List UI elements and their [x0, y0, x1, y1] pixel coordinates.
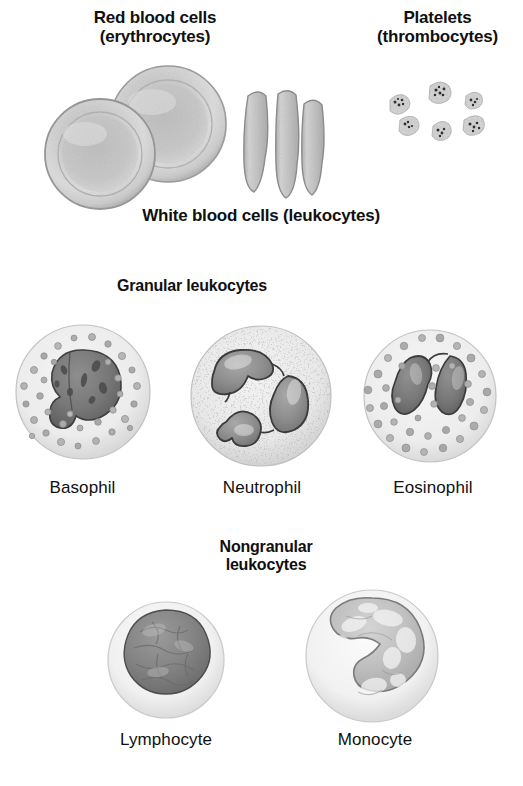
- platelet-5: [432, 121, 451, 140]
- label-basophil: Basophil: [15, 478, 150, 497]
- erythrocyte-edge-3: [302, 100, 324, 195]
- lymphocyte-illustration: [96, 588, 236, 730]
- heading-platelets: Platelets (thrombocytes): [350, 8, 523, 46]
- heading-granular-leukocytes: Granular leukocytes: [62, 277, 322, 295]
- blood-cells-figure: Red blood cells (erythrocytes) Platelets…: [0, 0, 523, 786]
- platelet-6: [463, 116, 484, 136]
- heading-white-blood-cells: White blood cells (leukocytes): [96, 206, 426, 225]
- erythrocyte-edge-view-group: [234, 84, 334, 204]
- label-lymphocyte: Lymphocyte: [96, 730, 236, 749]
- eosinophil-illustration: [354, 322, 506, 474]
- erythrocyte-disc-front: [45, 99, 155, 209]
- erythrocyte-edge-2: [276, 91, 299, 198]
- monocyte-illustration: [296, 580, 448, 732]
- label-monocyte: Monocyte: [305, 730, 445, 749]
- heading-red-blood-cells: Red blood cells (erythrocytes): [40, 8, 270, 46]
- heading-nongranular-leukocytes: Nongranular leukocytes: [176, 538, 356, 574]
- label-eosinophil: Eosinophil: [363, 478, 503, 497]
- erythrocyte-edge-1: [244, 92, 268, 192]
- platelet-3: [465, 92, 483, 109]
- eosinophil-cytoplasm: [364, 330, 496, 462]
- neutrophil-illustration: [184, 318, 339, 476]
- neutrophil-granules: [192, 327, 330, 465]
- basophil-illustration: [8, 318, 158, 473]
- platelet-cluster: [378, 78, 498, 168]
- erythrocyte-face-view-group: [28, 62, 243, 212]
- lymphocyte-nucleus: [124, 610, 210, 694]
- label-neutrophil: Neutrophil: [192, 478, 332, 497]
